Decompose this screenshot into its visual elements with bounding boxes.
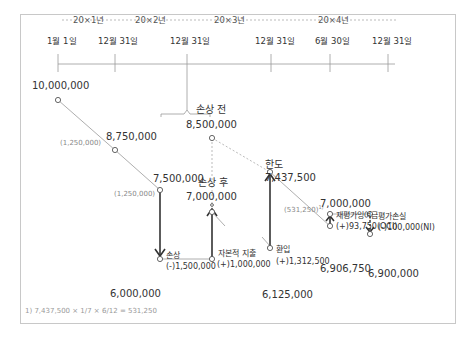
reversal-leader: [262, 237, 270, 246]
reval-loss-amount: (-)100,000(NI): [378, 223, 435, 232]
capex-arrow: [207, 209, 217, 259]
capex-amount: (+)1,000,000: [217, 260, 271, 269]
value-reversal-base: 6,125,000: [262, 289, 313, 300]
before-impairment-projection: [212, 138, 270, 172]
year-label-3: 20×3년: [214, 15, 245, 25]
point-revalued: [327, 211, 332, 216]
reval-surplus-label: 재평가잉여금: [336, 210, 378, 220]
value-impaired: 6,000,000: [110, 288, 161, 299]
point-y1-end: [112, 147, 117, 152]
date-label: 6월 30일: [315, 36, 350, 46]
value-end-y4: 6,900,000: [368, 268, 419, 279]
value-limit: 7,437,500: [265, 172, 316, 183]
timeline-axis: [58, 54, 395, 72]
impairment-revaluation-diagram: 20×1년 20×2년 20×3년 20×4년 1월 1일 12월 31일 12…: [0, 0, 467, 345]
impairment-amount: (-)1,500,000: [166, 262, 216, 271]
point-before-impairment: [209, 135, 214, 140]
date-label: 12월 31일: [372, 36, 412, 46]
reversal-arrow: [265, 174, 275, 246]
point-end-y4: [367, 231, 372, 236]
date-labels: 1월 1일 12월 31일 12월 31일 12월 31일 6월 30일 12월…: [47, 36, 412, 46]
dep-line-y2: [115, 150, 160, 190]
point-start: [55, 97, 60, 102]
year-label-4: 20×4년: [318, 15, 349, 25]
impairment-arrow: [155, 192, 165, 256]
date-label: 12월 31일: [170, 36, 210, 46]
year-label-1: 20×1년: [73, 15, 104, 25]
point-mid-y4: [327, 223, 332, 228]
value-y1-end: 8,750,000: [106, 131, 157, 142]
before-impairment-label: 손상 전: [196, 104, 226, 115]
value-y2-end: 7,500,000: [153, 173, 204, 184]
reval-surplus-arrow: [326, 216, 334, 224]
date-label: 12월 31일: [98, 36, 138, 46]
point-capex-top: [209, 209, 214, 214]
impairment-label: 손상: [166, 250, 181, 260]
value-mid-y4: 6,906,750: [320, 263, 371, 274]
point-y2-end: [157, 187, 162, 192]
value-after-impairment: 7,000,000: [186, 191, 237, 202]
capex-label: 자본적 지출: [218, 248, 256, 258]
after-impairment-label: 손상 후: [198, 177, 228, 188]
date-label: 12월 31일: [255, 36, 295, 46]
reversal-label: 환입: [276, 244, 290, 254]
year-label-2: 20×2년: [135, 15, 166, 25]
value-revalued: 7,000,000: [320, 198, 371, 209]
dep-y1: (1,250,000): [60, 139, 101, 147]
value-start: 10,000,000: [32, 80, 89, 91]
reval-loss-label: 평가손실: [378, 211, 406, 221]
footnote: 1) 7,437,500 × 1/7 × 6/12 = 531,250: [25, 307, 157, 315]
dep-y2: (1,250,000): [114, 190, 155, 198]
year-header: 20×1년 20×2년 20×3년 20×4년: [62, 15, 396, 25]
date-label: 1월 1일: [47, 36, 77, 46]
dep-y4: (531,250)1): [284, 204, 324, 214]
limit-label: 한도: [265, 159, 283, 170]
point-capex-base: [209, 256, 214, 261]
value-before-impairment: 8,500,000: [186, 119, 237, 130]
point-impaired: [157, 256, 162, 261]
point-after-impairment: [211, 204, 214, 207]
point-reversal-base: [267, 245, 272, 250]
